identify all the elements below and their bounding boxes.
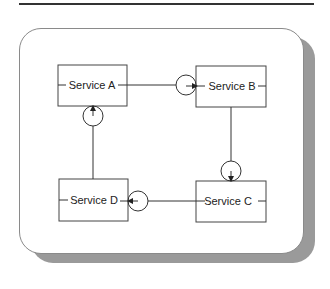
- service-a-node[interactable]: Service A: [58, 65, 127, 106]
- service-diagram: Service A Service B Service C Service D: [0, 0, 330, 289]
- service-a-label: Service A: [69, 79, 116, 91]
- service-b-node[interactable]: Service B: [196, 66, 266, 107]
- service-c-node[interactable]: Service C: [196, 181, 266, 222]
- service-c-label: Service C: [204, 195, 252, 207]
- connector-a-to-b: [118, 75, 205, 95]
- connector-c-to-d: [120, 191, 205, 211]
- port-circle-icon: [176, 75, 196, 95]
- service-d-node[interactable]: Service D: [59, 179, 128, 221]
- service-b-label: Service B: [208, 80, 255, 92]
- connector-d-to-a: [83, 106, 103, 179]
- connector-b-to-c: [221, 107, 241, 181]
- service-d-label: Service D: [70, 194, 118, 206]
